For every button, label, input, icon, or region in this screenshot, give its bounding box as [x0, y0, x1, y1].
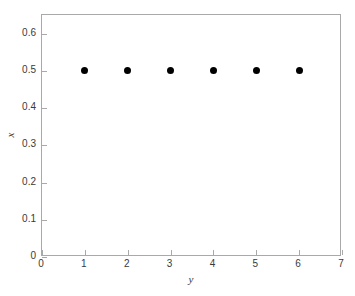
y-tick-mark	[42, 257, 47, 258]
y-axis-label: x	[4, 133, 16, 138]
x-tick-label: 4	[210, 258, 216, 270]
data-point	[167, 67, 174, 74]
data-point	[296, 67, 303, 74]
figure-canvas: x y 00.10.20.30.40.50.6 01234567	[0, 0, 355, 296]
x-tick-label: 6	[295, 258, 301, 270]
x-tick-label: 3	[167, 258, 173, 270]
x-tick-label: 2	[124, 258, 130, 270]
x-tick-label: 0	[38, 258, 44, 270]
x-tick-label: 1	[81, 258, 87, 270]
x-tick-label: 7	[338, 258, 344, 270]
data-point	[81, 67, 88, 74]
y-tick-label: 0.3	[22, 138, 36, 150]
y-tick-label: 0.5	[22, 64, 36, 76]
plot-area	[41, 14, 341, 256]
data-point	[210, 67, 217, 74]
data-point	[253, 67, 260, 74]
x-tick-mark	[342, 250, 343, 255]
data-point	[124, 67, 131, 74]
x-axis-label: y	[189, 273, 194, 285]
y-tick-label: 0.1	[22, 213, 36, 225]
y-tick-label: 0.4	[22, 101, 36, 113]
y-tick-label: 0.6	[22, 27, 36, 39]
y-tick-label: 0.2	[22, 176, 36, 188]
y-tick-label: 0	[30, 250, 36, 262]
scatter-series	[42, 15, 340, 255]
x-tick-label: 5	[253, 258, 259, 270]
